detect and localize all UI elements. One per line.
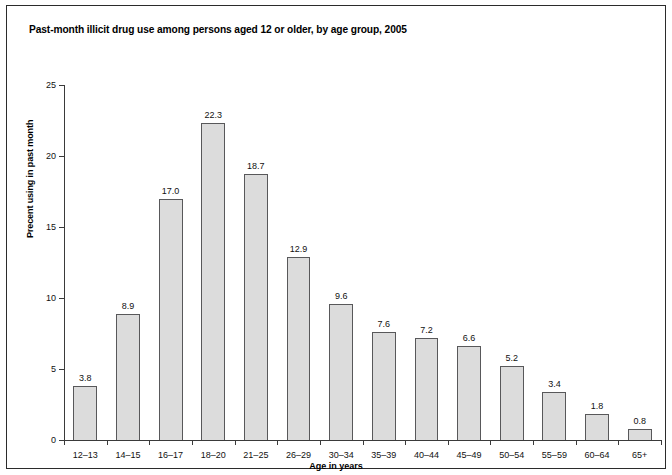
bar-value-label: 3.4 [533, 379, 576, 389]
bar[interactable] [287, 257, 311, 440]
x-axis-tick-mark [576, 440, 577, 445]
bar-value-label: 7.6 [363, 319, 406, 329]
bar-value-label: 8.9 [107, 301, 150, 311]
bar-value-label: 1.8 [576, 401, 619, 411]
bar[interactable] [457, 346, 481, 440]
bar-value-label: 5.2 [490, 353, 533, 363]
y-axis-tick-label: 5 [51, 364, 56, 374]
bar[interactable] [372, 332, 396, 440]
x-axis-tick-label: 45–49 [448, 450, 491, 460]
x-axis-tick-label: 55–59 [533, 450, 576, 460]
bar[interactable] [500, 366, 524, 440]
bar-value-label: 12.9 [277, 244, 320, 254]
bar-slot: 5.2 [490, 85, 533, 440]
bar-slot: 7.6 [363, 85, 406, 440]
bar-slot: 22.3 [192, 85, 235, 440]
page-title: Past-month illicit drug use among person… [29, 23, 407, 35]
x-axis-tick-mark [533, 440, 534, 445]
x-axis-tick-mark [363, 440, 364, 445]
bar[interactable] [585, 414, 609, 440]
x-axis-tick-label: 40–44 [405, 450, 448, 460]
plot-area: 0510152025 3.88.917.022.318.712.99.67.67… [64, 85, 661, 440]
bar-slot: 18.7 [235, 85, 278, 440]
x-axis-tick-mark [64, 440, 65, 445]
x-axis-tick-mark [149, 440, 150, 445]
x-axis-tick-label: 50–54 [490, 450, 533, 460]
bar[interactable] [329, 304, 353, 440]
bar-slot: 17.0 [149, 85, 192, 440]
bar-value-label: 22.3 [192, 110, 235, 120]
x-axis-tick-mark [235, 440, 236, 445]
x-axis-tick-label: 18–20 [192, 450, 235, 460]
bar-value-label: 18.7 [235, 161, 278, 171]
bar-value-label: 9.6 [320, 291, 363, 301]
y-axis-tick-label: 20 [46, 151, 56, 161]
bar-slot: 0.8 [618, 85, 661, 440]
bar-slot: 8.9 [107, 85, 150, 440]
bar-slot: 12.9 [277, 85, 320, 440]
x-axis-tick-mark [107, 440, 108, 445]
x-axis-tick-mark [490, 440, 491, 445]
chart-frame: Past-month illicit drug use among person… [6, 5, 666, 469]
y-axis-tick-label: 0 [51, 435, 56, 445]
x-axis-tick-label: 16–17 [149, 450, 192, 460]
bar-slot: 3.8 [64, 85, 107, 440]
x-axis-tick-mark [320, 440, 321, 445]
x-axis-tick-label: 60–64 [576, 450, 619, 460]
bar-value-label: 3.8 [64, 373, 107, 383]
bar[interactable] [159, 199, 183, 440]
chart-page: Past-month illicit drug use among person… [0, 0, 672, 475]
bar[interactable] [415, 338, 439, 440]
y-axis-tick-label: 25 [46, 80, 56, 90]
bar[interactable] [244, 174, 268, 440]
x-axis-tick-label: 30–34 [320, 450, 363, 460]
bar-slot: 1.8 [576, 85, 619, 440]
x-axis-title: Age in years [7, 461, 665, 471]
bar[interactable] [73, 386, 97, 440]
x-axis-tick-label: 14–15 [107, 450, 150, 460]
x-axis-tick-label: 65+ [618, 450, 661, 460]
x-axis-tick-mark [192, 440, 193, 445]
bar-slot: 9.6 [320, 85, 363, 440]
x-axis-tick-label: 12–13 [64, 450, 107, 460]
bar-value-label: 6.6 [448, 333, 491, 343]
x-axis-tick-mark [448, 440, 449, 445]
bar-slot: 6.6 [448, 85, 491, 440]
x-axis-tick-mark [405, 440, 406, 445]
bar-value-label: 7.2 [405, 325, 448, 335]
bar-slot: 7.2 [405, 85, 448, 440]
bar[interactable] [116, 314, 140, 440]
y-axis-tick-label: 10 [46, 293, 56, 303]
y-axis-tick-label: 15 [46, 222, 56, 232]
x-axis-tick-label: 21–25 [235, 450, 278, 460]
bar[interactable] [628, 429, 652, 440]
bar-value-label: 17.0 [149, 186, 192, 196]
bar-slot: 3.4 [533, 85, 576, 440]
bar[interactable] [201, 123, 225, 440]
x-axis-tick-mark [618, 440, 619, 445]
bar-value-label: 0.8 [618, 416, 661, 426]
bar[interactable] [542, 392, 566, 440]
x-axis-tick-mark [277, 440, 278, 445]
x-axis-tick-label: 26–29 [277, 450, 320, 460]
x-axis-tick-label: 35–39 [363, 450, 406, 460]
y-axis-title: Precent using in past month [25, 120, 35, 238]
x-axis-tick-mark [661, 440, 662, 445]
